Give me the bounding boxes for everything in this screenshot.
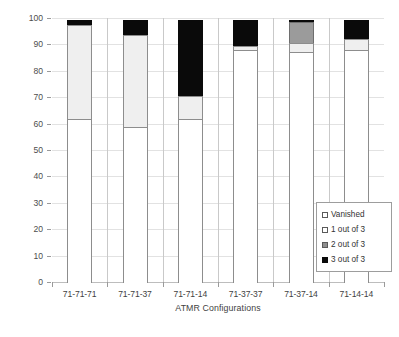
bar-group[interactable] (123, 18, 148, 282)
x-tick-mark (107, 282, 108, 287)
stacked-bar[interactable] (233, 18, 258, 282)
stacked-bar[interactable] (67, 18, 92, 282)
x-tick-mark (218, 282, 219, 287)
legend-label: 2 out of 3 (331, 240, 365, 249)
x-tick-mark (329, 282, 330, 287)
stacked-bar[interactable] (123, 18, 148, 282)
bar-segment[interactable] (123, 20, 148, 36)
y-tick-mark (47, 256, 51, 257)
legend-swatch-icon (322, 257, 328, 263)
bar-segment[interactable] (67, 25, 92, 120)
legend-item[interactable]: 2 out of 3 (322, 237, 387, 252)
legend-label: 1 out of 3 (331, 225, 365, 234)
bar-segment[interactable] (67, 119, 92, 283)
bar-segment[interactable] (233, 20, 258, 46)
x-tick-mark (163, 282, 164, 287)
y-tick-mark (47, 229, 51, 230)
bar-segment[interactable] (178, 96, 203, 120)
stacked-bar[interactable] (178, 18, 203, 282)
legend-swatch-icon (322, 242, 328, 248)
legend-label: Vanished (331, 210, 365, 219)
bar-segment[interactable] (344, 20, 369, 40)
y-tick-label: 10 (11, 252, 43, 261)
y-tick-label: 0 (11, 278, 43, 287)
legend-swatch-icon (322, 227, 328, 233)
bar-segment[interactable] (178, 119, 203, 283)
bar-segment[interactable] (289, 52, 314, 283)
y-tick-mark (47, 18, 51, 19)
y-tick-label: 100 (11, 14, 43, 23)
bar-group[interactable] (233, 18, 258, 282)
x-tick-mark (52, 282, 53, 287)
bar-segment[interactable] (233, 50, 258, 282)
y-tick-mark (47, 282, 51, 283)
y-tick-mark (47, 203, 51, 204)
y-tick-label: 90 (11, 40, 43, 49)
y-tick-mark (47, 176, 51, 177)
chart-legend: Vanished1 out of 32 out of 33 out of 3 (316, 202, 392, 272)
legend-swatch-icon (322, 212, 328, 218)
y-tick-mark (47, 150, 51, 151)
bar-group[interactable] (178, 18, 203, 282)
x-tick-mark (273, 282, 274, 287)
y-tick-label: 20 (11, 225, 43, 234)
bar-group[interactable] (67, 18, 92, 282)
y-tick-mark (47, 71, 51, 72)
category-divider (107, 18, 108, 282)
bar-group[interactable] (289, 18, 314, 282)
y-tick-label: 40 (11, 172, 43, 181)
legend-item[interactable]: Vanished (322, 207, 387, 222)
y-tick-mark (47, 44, 51, 45)
y-tick-label: 80 (11, 67, 43, 76)
bar-segment[interactable] (123, 127, 148, 283)
legend-label: 3 out of 3 (331, 255, 365, 264)
stacked-bar[interactable] (289, 17, 314, 282)
bar-segment[interactable] (178, 20, 203, 97)
bar-segment[interactable] (123, 35, 148, 127)
category-divider (273, 18, 274, 282)
y-tick-label: 30 (11, 199, 43, 208)
category-divider (163, 18, 164, 282)
y-tick-mark (47, 124, 51, 125)
legend-item[interactable]: 3 out of 3 (322, 252, 387, 267)
y-tick-label: 60 (11, 120, 43, 129)
stacked-bar-chart: Error Distribution [%] 01020304050607080… (0, 0, 399, 337)
category-divider (218, 18, 219, 282)
y-tick-label: 50 (11, 146, 43, 155)
x-axis-title: ATMR Configurations (52, 303, 384, 313)
legend-item[interactable]: 1 out of 3 (322, 222, 387, 237)
x-category-label: 71-14-14 (316, 289, 396, 299)
y-tick-mark (47, 97, 51, 98)
bar-segment[interactable] (289, 22, 314, 44)
y-tick-label: 70 (11, 93, 43, 102)
x-tick-mark (384, 282, 385, 287)
